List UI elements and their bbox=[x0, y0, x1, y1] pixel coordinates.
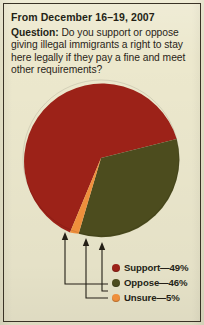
arrowhead-oppose bbox=[83, 238, 89, 246]
arrowhead-support bbox=[62, 232, 68, 240]
poll-card: From December 16–19, 2007 Question: Do y… bbox=[0, 0, 204, 325]
leader-line-oppose bbox=[86, 244, 108, 298]
legend-item-oppose: Oppose—46% bbox=[112, 276, 200, 289]
legend-swatch-support-icon bbox=[112, 264, 120, 272]
legend-item-unsure: Unsure—5% bbox=[112, 291, 200, 304]
arrowhead-unsure bbox=[99, 242, 105, 250]
legend-swatch-oppose-icon bbox=[112, 279, 120, 287]
chart-legend: Support—49% Oppose—46% Unsure—5% bbox=[112, 261, 200, 306]
legend-label-support: Support—49% bbox=[124, 262, 188, 273]
legend-swatch-unsure-icon bbox=[112, 294, 120, 302]
legend-label-unsure: Unsure—5% bbox=[124, 292, 180, 303]
legend-item-support: Support—49% bbox=[112, 261, 200, 274]
legend-label-oppose: Oppose—46% bbox=[124, 277, 188, 288]
